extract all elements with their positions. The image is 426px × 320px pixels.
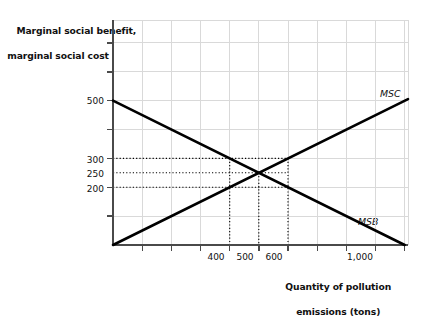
x-axis-title-line2: emissions (tons) xyxy=(296,306,380,317)
axis-lines xyxy=(113,20,408,245)
grid-lines xyxy=(113,20,408,245)
curve-msc xyxy=(113,99,408,245)
axis-ticks xyxy=(107,43,405,251)
